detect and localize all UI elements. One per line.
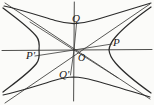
label-point-q: Q [72,13,80,24]
label-point-q-prime: Q' [59,69,69,80]
chord-origin-to-p [74,44,112,50]
label-point-p: P [113,37,120,48]
label-origin: O [78,53,85,63]
chord-origin-to-p-prime [35,50,74,56]
label-point-p-prime: P' [26,50,35,61]
conjugate-branch-lower [3,77,150,97]
hyperbola-figure: Q P P' O Q' [0,0,154,105]
